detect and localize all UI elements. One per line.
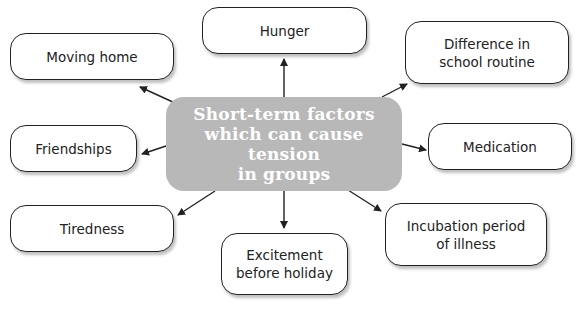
factor-excitement-before-holiday: Excitement before holiday [221,233,348,295]
factor-label-line-2: before holiday [236,264,333,282]
factor-label-line-1: Excitement [246,246,322,264]
factor-label-line-2: of illness [436,235,495,253]
factor-label: Hunger [260,22,310,40]
factor-hunger: Hunger [202,7,367,54]
arrow-to-friendships [142,146,166,154]
central-topic-line-2: which can cause tension [166,124,402,164]
factor-label-line-2: school routine [439,53,535,71]
central-topic-line-1: Short-term factors [166,104,402,124]
arrow-to-moving-home [140,87,175,103]
arrow-to-difference [382,84,407,97]
central-topic: Short-term factors which can cause tensi… [166,97,402,191]
factor-label: Medication [463,138,537,156]
factor-difference-school-routine: Difference in school routine [405,21,569,84]
factor-label-line-1: Difference in [444,35,530,53]
arrow-to-medication [402,144,426,150]
factor-friendships: Friendships [10,125,137,172]
factor-label: Moving home [46,48,137,66]
factor-label: Friendships [35,140,111,158]
arrow-to-tiredness [178,191,215,215]
arrow-to-incubation [348,190,381,211]
central-topic-line-3: in groups [166,164,402,184]
factor-label-line-1: Incubation period [407,217,526,235]
factor-label: Tiredness [60,220,125,238]
factor-tiredness: Tiredness [10,205,174,252]
factor-medication: Medication [428,123,572,170]
factor-moving-home: Moving home [10,33,174,80]
factor-incubation-period: Incubation period of illness [385,203,547,266]
